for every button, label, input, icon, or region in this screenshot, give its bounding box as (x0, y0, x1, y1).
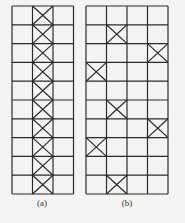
grid-panel-b (85, 5, 169, 195)
grid-panel-a (11, 5, 75, 195)
panel-b-label: (b) (107, 198, 147, 208)
panel-a-label: (a) (22, 198, 62, 208)
